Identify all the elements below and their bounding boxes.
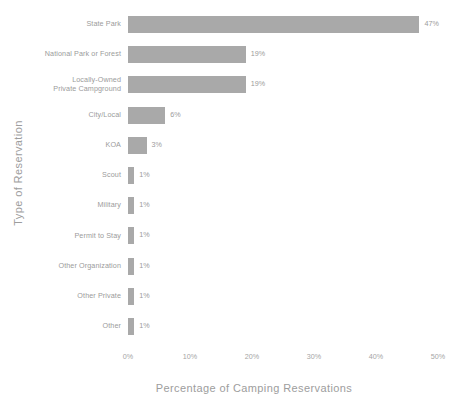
bar-value-label: 19% bbox=[251, 49, 265, 58]
bar-value-label: 1% bbox=[139, 200, 149, 209]
x-axis-tick-label: 50% bbox=[431, 352, 445, 361]
bar-row: Other1% bbox=[36, 318, 472, 335]
bar-row: State Park47% bbox=[36, 16, 472, 33]
x-axis-tick-label: 0% bbox=[123, 352, 133, 361]
bar-track: 3% bbox=[128, 137, 472, 154]
x-axis-title: Percentage of Camping Reservations bbox=[36, 382, 472, 394]
x-axis-tick-label: 10% bbox=[183, 352, 197, 361]
bar-row: National Park or Forest19% bbox=[36, 46, 472, 63]
bar[interactable] bbox=[128, 46, 246, 63]
category-label-line: KOA bbox=[106, 140, 121, 149]
category-label-line: City/Local bbox=[88, 110, 121, 119]
category-label: Scout bbox=[36, 171, 128, 179]
bar-value-label: 19% bbox=[251, 79, 265, 88]
category-label-line: State Park bbox=[86, 19, 121, 28]
bar-row: Other Organization1% bbox=[36, 258, 472, 275]
bar-row: Other Private1% bbox=[36, 288, 472, 305]
category-label: Locally-OwnedPrivate Campground bbox=[36, 76, 128, 93]
y-axis-title: Type of Reservation bbox=[0, 0, 36, 345]
category-label-line: Military bbox=[97, 200, 121, 209]
category-label-line: Private Campground bbox=[36, 85, 121, 93]
x-axis-tick-label: 30% bbox=[307, 352, 321, 361]
bar-track: 19% bbox=[128, 76, 472, 93]
category-label-line: Other Organization bbox=[58, 261, 121, 270]
category-label-line: Permit to Stay bbox=[74, 231, 121, 240]
bar-value-label: 1% bbox=[139, 170, 149, 179]
plot-area: State Park47%National Park or Forest19%L… bbox=[36, 10, 472, 346]
category-label: Permit to Stay bbox=[36, 232, 128, 240]
bar-track: 47% bbox=[128, 16, 472, 33]
bar[interactable] bbox=[128, 107, 165, 124]
x-axis-tick-labels: 0%10%20%30%40%50% bbox=[36, 352, 472, 366]
bar[interactable] bbox=[128, 318, 134, 335]
bar-track: 1% bbox=[128, 227, 472, 244]
bar-track: 1% bbox=[128, 288, 472, 305]
bar-track: 1% bbox=[128, 258, 472, 275]
bar-row: Scout1% bbox=[36, 167, 472, 184]
bar-value-label: 6% bbox=[170, 110, 180, 119]
bar-row: Permit to Stay1% bbox=[36, 227, 472, 244]
bar[interactable] bbox=[128, 197, 134, 214]
category-label: Military bbox=[36, 201, 128, 209]
category-label-line: Scout bbox=[102, 170, 121, 179]
bar-track: 1% bbox=[128, 197, 472, 214]
bar-row: Military1% bbox=[36, 197, 472, 214]
category-label-line: National Park or Forest bbox=[45, 49, 121, 58]
bar-value-label: 1% bbox=[139, 261, 149, 270]
bar[interactable] bbox=[128, 16, 419, 33]
bar[interactable] bbox=[128, 258, 134, 275]
bar-row: KOA3% bbox=[36, 137, 472, 154]
bar-value-label: 3% bbox=[152, 140, 162, 149]
bar[interactable] bbox=[128, 288, 134, 305]
bar-value-label: 1% bbox=[139, 291, 149, 300]
category-label: Other bbox=[36, 322, 128, 330]
category-label: Other Private bbox=[36, 292, 128, 300]
bar-track: 6% bbox=[128, 107, 472, 124]
x-axis-tick-label: 40% bbox=[369, 352, 383, 361]
category-label: Other Organization bbox=[36, 262, 128, 270]
category-label-line: Other Private bbox=[77, 291, 121, 300]
category-label: State Park bbox=[36, 20, 128, 28]
x-axis-tick-label: 20% bbox=[245, 352, 259, 361]
bar[interactable] bbox=[128, 137, 147, 154]
y-axis-title-text: Type of Reservation bbox=[12, 120, 24, 225]
category-label: City/Local bbox=[36, 111, 128, 119]
bar-track: 1% bbox=[128, 318, 472, 335]
bar-row: City/Local6% bbox=[36, 107, 472, 124]
bar-track: 19% bbox=[128, 46, 472, 63]
category-label-line: Other bbox=[103, 321, 121, 330]
bar-chart: Type of Reservation State Park47%Nationa… bbox=[0, 0, 472, 417]
x-axis-title-text: Percentage of Camping Reservations bbox=[156, 382, 352, 394]
category-label: KOA bbox=[36, 141, 128, 149]
bar[interactable] bbox=[128, 76, 246, 93]
bar[interactable] bbox=[128, 227, 134, 244]
bar-value-label: 47% bbox=[424, 19, 438, 28]
bar-row: Locally-OwnedPrivate Campground19% bbox=[36, 76, 472, 93]
bar-value-label: 1% bbox=[139, 230, 149, 239]
category-label: National Park or Forest bbox=[36, 50, 128, 58]
bar-track: 1% bbox=[128, 167, 472, 184]
bar[interactable] bbox=[128, 167, 134, 184]
bar-value-label: 1% bbox=[139, 321, 149, 330]
